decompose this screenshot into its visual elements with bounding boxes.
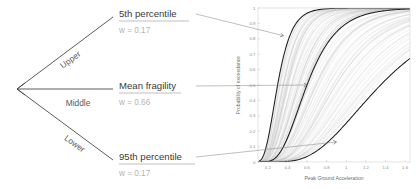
endpoint-upper: 5th percentile w = 0.17 (118, 8, 177, 35)
branch-weight-lower: w = 0.17 (118, 169, 151, 178)
branch-title-middle: Mean fragility (119, 80, 176, 91)
x-tick-label: 1.4 (382, 165, 389, 170)
figure-root: Upper Middle Lower 5th percentile w = 0.… (0, 0, 418, 189)
y-axis-title: Probability of exceedance (235, 56, 241, 114)
branch-line-upper (17, 17, 113, 89)
x-tick-label: 0.6 (304, 165, 311, 170)
figure-canvas: Upper Middle Lower 5th percentile w = 0.… (0, 0, 418, 189)
branch-title-upper: 5th percentile (119, 8, 177, 19)
branch-label-middle: Middle (66, 98, 91, 108)
x-tick-label: 0.2 (265, 165, 272, 170)
y-tick-label: 1 (253, 6, 256, 11)
x-tick-label: 1 (345, 165, 348, 170)
branch-title-lower: 95th percentile (119, 151, 182, 162)
x-tick-label: 0.4 (284, 165, 291, 170)
y-tick-label: 0.6 (250, 67, 257, 72)
endpoint-lower: 95th percentile w = 0.17 (118, 151, 182, 178)
y-tick-label: 0.9 (250, 21, 257, 26)
branch-weight-upper: w = 0.17 (118, 26, 151, 35)
y-tick-label: 0.1 (250, 144, 257, 149)
x-tick-label: 0.8 (324, 165, 331, 170)
x-axis-title: Peak Ground Acceleration (304, 175, 363, 181)
y-tick-label: 0.2 (250, 129, 257, 134)
y-tick-label: 0.8 (250, 36, 257, 41)
y-tick-label: 0 (253, 160, 256, 165)
fragility-curve-chart: 0.20.40.60.811.21.41.600.10.20.30.40.50.… (235, 6, 410, 181)
y-tick-label: 0.5 (250, 83, 257, 88)
y-tick-label: 0.7 (250, 52, 257, 57)
logic-tree-diagram: Upper Middle Lower (17, 17, 113, 160)
x-tick-label: 1.2 (363, 165, 370, 170)
branch-label-lower: Lower (63, 133, 87, 155)
y-tick-label: 0.4 (250, 98, 257, 103)
x-tick-label: 1.6 (402, 165, 409, 170)
branch-weight-middle: w = 0.66 (118, 98, 151, 107)
y-tick-label: 0.3 (250, 113, 257, 118)
endpoint-middle: Mean fragility w = 0.66 (118, 80, 176, 107)
branch-label-upper: Upper (58, 49, 82, 71)
